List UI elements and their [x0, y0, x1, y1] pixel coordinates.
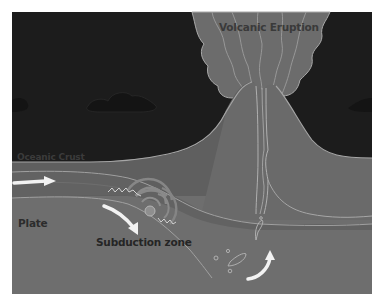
epicenter-dot	[145, 206, 155, 216]
subduction-volcano-diagram: Volcanic Eruption Oceanic Crust Plate Su…	[0, 0, 382, 305]
plate-label: Plate	[18, 217, 48, 229]
subduction-zone-label: Subduction zone	[96, 236, 192, 248]
oceanic-crust-label: Oceanic Crust	[17, 152, 85, 162]
volcanic-eruption-label: Volcanic Eruption	[219, 21, 319, 33]
